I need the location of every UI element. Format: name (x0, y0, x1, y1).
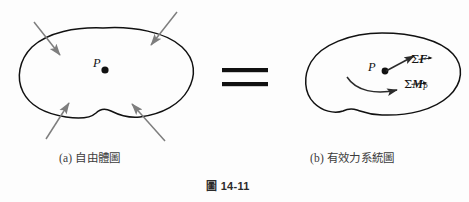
resultant-moment-symbol: M (412, 77, 423, 91)
sigma-glyph-moment: Σ (404, 77, 412, 91)
equals-sign (222, 68, 268, 86)
effective-body-outline (306, 33, 461, 115)
figure-canvas (0, 0, 469, 202)
resultant-force-label: Σ F (411, 51, 427, 67)
figure-number: 圖 14-11 (206, 177, 250, 193)
point-p-label-b: P (368, 60, 376, 75)
panel-a-group (19, 12, 193, 141)
bottom-right-force-arrow (132, 104, 165, 141)
equals-bar-top (222, 68, 268, 72)
point-p-marker-a (101, 66, 108, 73)
resultant-moment-label: Σ MP (404, 76, 428, 92)
bottom-left-force-arrow (46, 103, 69, 139)
sigma-glyph-force: Σ (411, 52, 419, 66)
panel-a-caption: (a) 自由體圖 (59, 149, 120, 165)
figure-number-value: 14-11 (221, 180, 250, 192)
panel-b-caption: (b) 有效力系統圖 (310, 149, 394, 165)
resultant-moment-subscript: P (423, 83, 428, 92)
point-p-label-a: P (93, 56, 101, 71)
equals-bar-bottom (222, 82, 268, 86)
figure-14-11: P P Σ F Σ MP (a) 自由體圖 (b) 有效力系統圖 圖 14-11 (0, 0, 469, 202)
resultant-force-vector (386, 56, 414, 71)
vector-f-glyph: F (419, 51, 427, 67)
top-left-force-arrow (34, 22, 60, 55)
resultant-moment-arc (347, 77, 397, 92)
panel-b-group (306, 33, 461, 115)
figure-number-prefix: 圖 (206, 180, 217, 192)
vector-m-glyph: M (412, 76, 423, 92)
resultant-force-symbol: F (419, 52, 427, 66)
